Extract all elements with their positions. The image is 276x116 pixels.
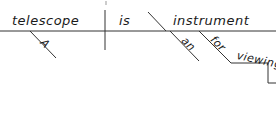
verb-word: is — [119, 14, 130, 27]
complement-separator — [148, 12, 166, 31]
complement-word: instrument — [173, 14, 249, 27]
sentence-diagram: telescope is instrument A an for viewing — [0, 0, 276, 116]
subject-word: telescope — [12, 14, 79, 27]
